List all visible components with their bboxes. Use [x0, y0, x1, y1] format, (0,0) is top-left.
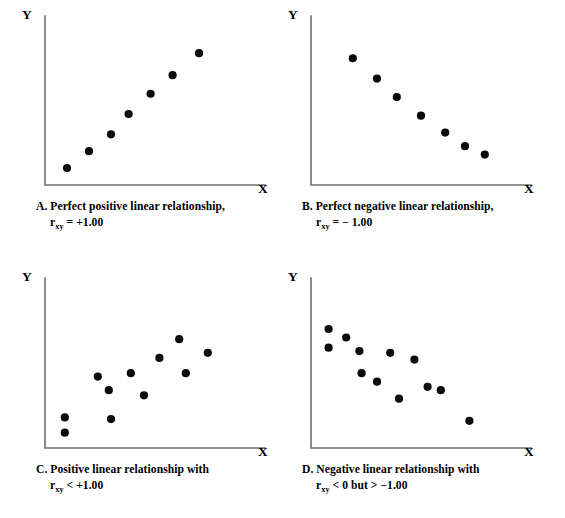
panel-b-r-subscript: xy — [321, 222, 329, 231]
panel-c-y-axis-label: Y — [22, 270, 32, 284]
data-point — [140, 391, 148, 399]
data-point — [155, 354, 163, 362]
panel-d-caption-line2: rxy < 0 but > −1.00 — [302, 478, 546, 495]
panel-b-caption-line1: B. Perfect negative linear relationship, — [302, 200, 494, 213]
data-point — [395, 395, 403, 403]
data-point — [386, 349, 394, 357]
correlation-scatter-figure: Y X A. Perfect positive linear relations… — [0, 0, 565, 518]
panel-a-r-value: = +1.00 — [64, 216, 104, 229]
data-point — [61, 413, 69, 421]
data-point — [358, 369, 366, 377]
data-point — [410, 356, 418, 364]
panel-a-caption: A. Perfect positive linear relationship,… — [36, 199, 280, 232]
data-point — [342, 333, 350, 341]
panel-d-x-axis-label: X — [524, 445, 534, 459]
data-point — [417, 112, 425, 120]
data-point — [63, 164, 71, 172]
panel-a-x-axis-label: X — [258, 182, 268, 196]
data-point — [465, 417, 473, 425]
data-point — [441, 129, 449, 137]
panel-c-caption-line2: rxy < +1.00 — [36, 478, 280, 495]
data-point — [393, 93, 401, 101]
panel-d: Y X D. Negative linear relationship with… — [283, 259, 565, 518]
panel-b-axes — [311, 16, 531, 185]
panel-c-axes — [45, 278, 265, 448]
data-point — [204, 349, 212, 357]
data-point — [85, 147, 93, 155]
data-point — [105, 386, 113, 394]
data-point — [94, 373, 102, 381]
panel-b: Y X B. Perfect negative linear relations… — [283, 0, 565, 259]
panel-a-y-axis-label: Y — [22, 8, 32, 22]
panel-d-r-value: < 0 but > −1.00 — [330, 479, 408, 492]
panel-b-plot — [283, 0, 565, 205]
data-point — [147, 90, 155, 98]
panel-c-r-value: < +1.00 — [64, 479, 104, 492]
data-point — [61, 429, 69, 437]
panel-c-points — [61, 335, 212, 437]
data-point — [424, 383, 432, 391]
panel-c-caption-line1: C. Positive linear relationship with — [36, 463, 209, 476]
panel-a-caption-line1: A. Perfect positive linear relationship, — [36, 200, 225, 213]
data-point — [127, 369, 135, 377]
data-point — [107, 130, 115, 138]
data-point — [325, 325, 333, 333]
panel-d-axes — [311, 278, 531, 448]
panel-a-caption-line2: rxy = +1.00 — [36, 215, 280, 232]
data-point — [107, 415, 115, 423]
data-point — [373, 74, 381, 82]
panel-c: Y X C. Positive linear relationship with… — [0, 259, 282, 518]
panel-c-plot — [0, 259, 282, 464]
data-point — [325, 344, 333, 352]
panel-b-r-value: = − 1.00 — [330, 216, 373, 229]
panel-a-points — [63, 49, 203, 172]
data-point — [461, 142, 469, 150]
panel-c-x-axis-label: X — [258, 445, 268, 459]
data-point — [349, 54, 357, 62]
data-point — [373, 378, 381, 386]
panel-d-caption-line1: D. Negative linear relationship with — [302, 463, 480, 476]
data-point — [437, 386, 445, 394]
panel-c-r-subscript: xy — [55, 485, 63, 494]
data-point — [125, 110, 133, 118]
data-point — [175, 335, 183, 343]
panel-a-axes — [45, 16, 265, 185]
panel-d-caption: D. Negative linear relationship with rxy… — [302, 462, 546, 495]
panel-a-r-subscript: xy — [55, 222, 63, 231]
data-point — [169, 71, 177, 79]
panel-b-caption: B. Perfect negative linear relationship,… — [302, 199, 546, 232]
panel-c-caption: C. Positive linear relationship with rxy… — [36, 462, 280, 495]
data-point — [195, 49, 203, 57]
panel-d-r-subscript: xy — [321, 485, 329, 494]
data-point — [355, 347, 363, 355]
data-point — [481, 150, 489, 158]
panel-d-plot — [283, 259, 565, 464]
panel-d-y-axis-label: Y — [288, 270, 298, 284]
panel-d-points — [325, 325, 474, 425]
panel-b-x-axis-label: X — [524, 182, 534, 196]
panel-b-caption-line2: rxy = − 1.00 — [302, 215, 546, 232]
panel-b-y-axis-label: Y — [288, 8, 298, 22]
panel-b-points — [349, 54, 489, 159]
panel-a-plot — [0, 0, 282, 205]
panel-a: Y X A. Perfect positive linear relations… — [0, 0, 282, 259]
data-point — [182, 369, 190, 377]
